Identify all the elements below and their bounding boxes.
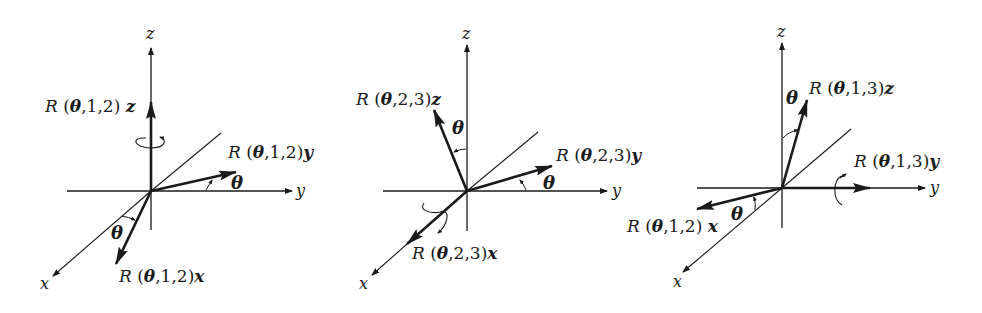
- rotated-y-label: R (θ,1,2)y: [228, 144, 313, 161]
- angle-arc-x: [122, 216, 135, 220]
- angle-arc-y: [520, 180, 526, 190]
- x-axis: [53, 191, 151, 276]
- y-axis-label: y: [296, 183, 305, 199]
- x-axis-label: x: [40, 276, 49, 292]
- angle-label-y: θ: [231, 174, 243, 192]
- angle-label-z: θ: [452, 119, 464, 137]
- rotated-z-label: R (θ,1,3)z: [809, 80, 894, 97]
- angle-label-y: θ: [543, 174, 555, 192]
- depth-line: [467, 132, 538, 191]
- rotated-y-vector: [151, 172, 236, 191]
- z-axis-label: z: [462, 26, 470, 42]
- rotated-z-vector: [782, 100, 807, 188]
- rotated-z-label: R (θ,1,2) z: [45, 98, 135, 115]
- angle-label-x: θ: [111, 224, 123, 242]
- rotated-x-label: R (θ,1,2)x: [119, 268, 204, 285]
- rotated-x-label: R (θ,1,2) x: [627, 218, 718, 235]
- x-axis-label: x: [359, 276, 368, 292]
- rotation-indicator-icon: [835, 176, 842, 205]
- depth-line: [782, 129, 851, 188]
- z-axis-label: z: [146, 26, 154, 42]
- rotated-x-label: R (θ,2,3)x: [412, 245, 497, 262]
- rotated-y-label: R (θ,2,3)y: [556, 147, 641, 164]
- x-axis-label: x: [673, 274, 682, 290]
- angle-arc-y: [206, 180, 212, 190]
- angle-arc-x: [754, 197, 755, 210]
- rotated-z-label: R (θ,2,3)z: [356, 91, 441, 108]
- angle-label-z: θ: [786, 89, 798, 107]
- rotated-y-label: R (θ,1,3)y: [854, 153, 939, 170]
- y-axis-label: y: [612, 183, 621, 199]
- rotated-x-vector: [407, 191, 467, 244]
- angle-label-x: θ: [731, 205, 743, 223]
- rotated-y-vector: [467, 166, 552, 191]
- angle-arc-z: [454, 149, 466, 152]
- panel-rotation-1-2: [53, 48, 292, 276]
- rotation-diagram: z y x R (θ,1,2) z R (θ,1,2)y R (θ,1,2)x …: [0, 0, 982, 313]
- y-axis-label: y: [930, 180, 939, 196]
- z-axis-label: z: [777, 24, 785, 40]
